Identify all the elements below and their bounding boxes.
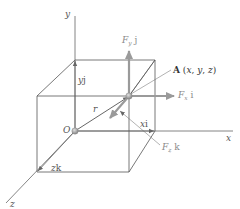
force-fz-label: Fz k	[162, 143, 180, 153]
point-a-leader	[131, 70, 171, 94]
xi-component-label: xixi	[140, 120, 148, 129]
coordinate-box	[37, 60, 155, 172]
point-a-label: A (x, y, z)A (x, y, z)	[173, 66, 216, 75]
point-a	[126, 93, 132, 99]
top-face-diagonal	[129, 60, 155, 96]
origin-point	[72, 128, 78, 134]
position-vector-r	[75, 97, 128, 131]
z-axis-label: z	[10, 200, 15, 209]
x-axis-label: x	[226, 134, 231, 143]
y-axis-label: y	[65, 10, 70, 19]
zk-component-label: zkzk	[51, 164, 61, 173]
yj-component-label: yjyj	[78, 76, 86, 85]
origin-label: O	[63, 126, 70, 135]
force-fx-label: Fx i	[178, 91, 193, 101]
force-components-diagram	[0, 0, 240, 209]
position-vector-label: r	[93, 105, 97, 114]
force-fy-label: Fy j	[122, 36, 137, 46]
